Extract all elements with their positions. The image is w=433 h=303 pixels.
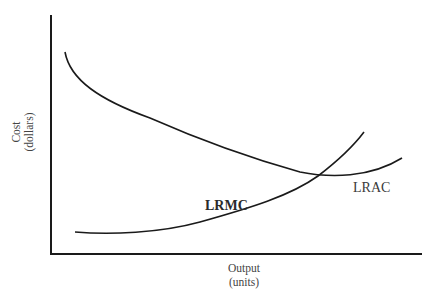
lrac-label: LRAC (353, 180, 390, 195)
lrac-curve (65, 52, 402, 175)
lrmc-curve (75, 132, 364, 233)
y-axis-label-line2: (dollars) (23, 112, 36, 151)
x-axis-label-line1: Output (228, 262, 261, 275)
y-axis-label: Cost (dollars) (10, 112, 36, 151)
cost-curves-chart: LRMC LRAC Cost (dollars) Output (units) (0, 0, 433, 303)
x-axis-label-line2: (units) (229, 276, 259, 289)
lrmc-label: LRMC (205, 198, 248, 213)
y-axis-label-line1: Cost (10, 121, 22, 143)
